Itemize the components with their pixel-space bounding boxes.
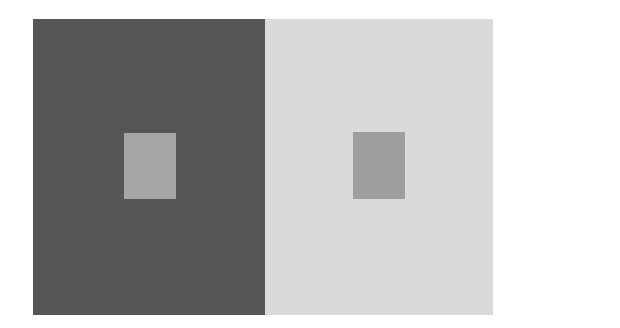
gray-square-on-light bbox=[353, 132, 405, 199]
gray-square-on-dark bbox=[124, 133, 176, 199]
